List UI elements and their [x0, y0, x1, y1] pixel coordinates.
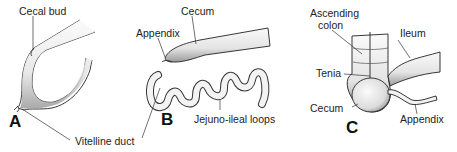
label-vitelline-duct: Vitelline duct: [75, 136, 134, 147]
label-cecum-b: Cecum: [181, 6, 214, 17]
label-cecum-c: Cecum: [310, 103, 343, 114]
panel-c-drawing: [332, 30, 440, 114]
panel-letter-a: A: [9, 112, 21, 132]
panel-a-drawing: [14, 16, 95, 140]
label-ascending-colon-line1: Ascending: [310, 8, 359, 19]
panel-letter-c: C: [346, 118, 358, 138]
diagram-drawing: [0, 0, 457, 152]
label-appendix-c: Appendix: [400, 114, 444, 125]
label-appendix-b: Appendix: [136, 28, 180, 39]
panel-letter-b: B: [161, 110, 173, 130]
label-jejuno-ileal-loops: Jejuno-ileal loops: [194, 114, 275, 125]
label-ileum: Ileum: [400, 28, 426, 39]
label-cecal-bud: Cecal bud: [19, 6, 66, 17]
label-tenia: Tenia: [316, 68, 341, 79]
label-ascending-colon-line2: colon: [318, 20, 343, 31]
